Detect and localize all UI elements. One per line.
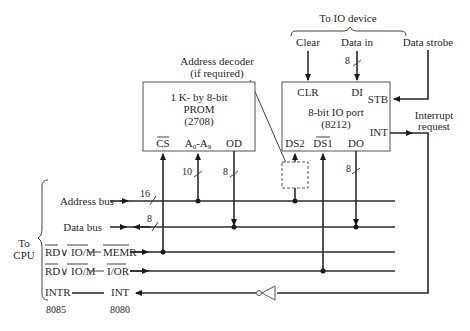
decoder-junction xyxy=(293,199,298,204)
int-label: INT xyxy=(111,286,130,298)
address-decoder-box xyxy=(282,162,308,188)
interrupt-request-line xyxy=(277,133,428,293)
prom-pin-addr: A0-A9 xyxy=(185,137,212,151)
inverter-icon xyxy=(262,286,275,300)
clear-label: Clear xyxy=(296,36,320,48)
io-interface-diagram: To IO device Clear Data in Data strobe 8… xyxy=(0,0,470,331)
interrupt-request-label-2: request xyxy=(418,120,450,132)
data-in-label: Data in xyxy=(341,36,374,48)
io-pin-ds2: DS2 xyxy=(285,137,305,149)
to-label: To xyxy=(18,237,30,249)
data-strobe-line xyxy=(394,50,428,99)
prom-pin-od: OD xyxy=(226,137,242,149)
io-pin-stb: STB xyxy=(368,93,388,105)
cpu-brace xyxy=(38,180,48,300)
data-strobe-label: Data strobe xyxy=(403,36,454,48)
io-port-name: 8-bit IO port xyxy=(308,106,364,118)
cpu-8085-label: 8085 xyxy=(46,304,66,315)
address-bus-label: Address bus xyxy=(60,195,114,207)
inverter-bubble xyxy=(257,291,262,296)
rd-io-m-label-a: RD∨ IO/M xyxy=(45,246,96,258)
io-pin-ds1: DS1 xyxy=(313,137,333,149)
intr-label: INTR xyxy=(45,286,71,298)
io-pin-do: DO xyxy=(348,137,364,149)
address-decoder-label: Address decoder xyxy=(180,55,254,67)
do-width: 8 xyxy=(346,163,351,174)
ds1-junction xyxy=(321,269,326,274)
io-device-brace xyxy=(291,27,406,36)
address-bus-width: 16 xyxy=(140,188,150,199)
prom-part: (2708) xyxy=(184,115,214,128)
io-port-part: (8212) xyxy=(321,118,351,131)
prom-od-width: 8 xyxy=(223,166,228,177)
to-io-device-label: To IO device xyxy=(319,12,376,24)
addr-junction xyxy=(196,199,201,204)
io-pin-di: DI xyxy=(351,86,363,98)
address-decoder-note: (if required) xyxy=(190,67,244,80)
data-bus-label: Data bus xyxy=(63,221,102,233)
io-pin-clr: CLR xyxy=(297,86,319,98)
od-junction xyxy=(232,225,237,230)
cpu-8080-label: 8080 xyxy=(110,304,130,315)
do-junction xyxy=(354,225,359,230)
data-bus-width: 8 xyxy=(147,213,152,224)
prom-pin-cs: CS xyxy=(156,137,169,149)
prom-size: 1 K- by 8-bit xyxy=(170,91,227,103)
cs-junction xyxy=(161,250,166,255)
rd-io-m-label-b: RD∨ IO/M xyxy=(45,265,96,277)
data-in-width: 8 xyxy=(345,55,350,66)
ior-label: I/OR xyxy=(107,265,130,277)
cpu-label: CPU xyxy=(13,249,34,261)
prom-type: PROM xyxy=(183,103,214,115)
prom-addr-width: 10 xyxy=(182,166,192,177)
io-pin-int: INT xyxy=(370,126,389,138)
memr-label: MEMR xyxy=(103,246,137,258)
